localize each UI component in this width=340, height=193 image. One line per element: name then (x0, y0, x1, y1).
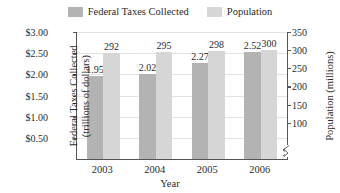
bar-federal-taxes[interactable]: 2.52 (244, 52, 260, 159)
x-axis-category-label: 2006 (249, 164, 270, 176)
bar-population[interactable]: 298 (208, 51, 224, 159)
bar-federal-taxes[interactable]: 2.02 (139, 74, 155, 160)
chart-legend: Federal Taxes Collected Population (0, 6, 340, 17)
y-axis-right-tick-label: 150 (292, 99, 307, 110)
legend-swatch-icon-taxes (68, 7, 83, 17)
y-axis-right-tick-label: 250 (292, 63, 307, 74)
y-axis-left-tick-label: $3.00 (26, 27, 49, 38)
bar-federal-taxes[interactable]: 2.27 (192, 63, 208, 159)
bar-group: 1.95292 (87, 32, 120, 159)
chart-container: Federal Taxes Collected Population 1.952… (0, 0, 340, 193)
bar-value-label-population: 298 (209, 39, 224, 50)
y-axis-left-tick-label: $2.50 (26, 48, 49, 59)
y-axis-left-tick-label: $1.50 (26, 90, 49, 101)
bar-group: 2.27298 (192, 32, 225, 159)
bar-group: 2.52300 (244, 32, 277, 159)
bar-value-label-population: 300 (261, 38, 276, 49)
legend-swatch-icon-population (207, 7, 222, 17)
y-axis-left-tick-label: $1.00 (26, 111, 49, 122)
y-axis-right-tick (287, 50, 291, 51)
bar-value-label-taxes: 2.02 (139, 62, 157, 73)
bar-population[interactable]: 292 (103, 53, 119, 159)
plot-area: 1.952922.022952.272982.52300 Federal Tax… (76, 32, 288, 160)
x-axis-category-label: 2003 (92, 164, 113, 176)
legend-label-population: Population (227, 6, 273, 17)
y-axis-right-tick-label: 300 (292, 45, 307, 56)
legend-item-population: Population (207, 6, 273, 17)
bar-group: 2.02295 (139, 32, 172, 159)
y-axis-right-tick (287, 32, 291, 33)
y-axis-right-tick (287, 123, 291, 124)
y-axis-left-tick-label: $0.50 (26, 132, 49, 143)
legend-label-taxes: Federal Taxes Collected (88, 6, 189, 17)
bar-value-label-population: 292 (104, 41, 119, 52)
y-axis-right-tick (287, 68, 291, 69)
bar-value-label-taxes: 2.52 (244, 40, 262, 51)
y-axis-left-tick (73, 32, 77, 33)
y-axis-right-tick-label: 100 (292, 117, 307, 128)
bar-value-label-population: 295 (156, 40, 171, 51)
axis-break-icon (282, 145, 292, 157)
y-axis-right-tick-label: 350 (292, 27, 307, 38)
y-axis-left-title-line1: Federal Taxes Collected (68, 45, 79, 146)
bar-groups: 1.952922.022952.272982.52300 (77, 32, 287, 159)
bar-population[interactable]: 300 (261, 50, 277, 159)
legend-item-federal-taxes-collected: Federal Taxes Collected (68, 6, 189, 17)
x-axis-category-label: 2004 (144, 164, 165, 176)
y-axis-right-tick (287, 105, 291, 106)
bar-population[interactable]: 295 (156, 52, 172, 159)
y-axis-left-title: Federal Taxes Collected (trillions of do… (68, 45, 92, 146)
y-axis-right-tick-label: 200 (292, 81, 307, 92)
x-axis-title: Year (0, 178, 340, 190)
y-axis-left-tick-label: $2.00 (26, 69, 49, 80)
y-axis-right-title: Population (millions) (324, 51, 336, 141)
x-axis-category-label: 2005 (197, 164, 218, 176)
y-axis-left-title-line2: (trillions of dollars) (80, 45, 92, 146)
bar-value-label-taxes: 2.27 (191, 51, 209, 62)
y-axis-right-tick (287, 86, 291, 87)
